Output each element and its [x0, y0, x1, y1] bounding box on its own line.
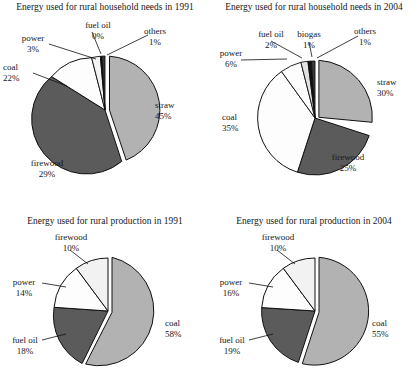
slice-label-firewood: firewood 10%	[247, 232, 309, 253]
chart-title: Energy used for rural production in 1991	[0, 216, 210, 226]
chart-household-1991: Energy used for rural household needs in…	[0, 0, 210, 195]
slice-label-fuel-oil: fuel oil 19%	[209, 335, 255, 356]
pie-slices	[262, 257, 369, 365]
slice-label-coal: coal 35%	[222, 112, 239, 133]
pie-chart-figure: Energy used for rural household needs in…	[0, 0, 419, 389]
pie-slices	[53, 257, 153, 365]
chart-title: Energy used for rural production in 2004	[209, 216, 419, 226]
slice-straw[interactable]	[319, 60, 372, 122]
slice-label-firewood: firewood 25%	[317, 152, 379, 173]
slice-label-others: others 1%	[134, 26, 176, 47]
slice-label-power: power 6%	[209, 48, 253, 69]
chart-title: Energy used for rural household needs in…	[209, 2, 419, 12]
slice-label-power: power 14%	[2, 277, 46, 298]
slice-straw[interactable]	[110, 56, 160, 160]
slice-label-fuel-oil: fuel oil 18%	[2, 335, 48, 356]
slice-label-straw: straw 30%	[377, 77, 397, 98]
chart-production-1991: Energy used for rural production in 1991…	[0, 194, 210, 389]
chart-household-2004: Energy used for rural household needs in…	[209, 0, 419, 195]
slice-label-firewood: firewood 29%	[16, 158, 78, 179]
chart-production-2004: Energy used for rural production in 2004…	[209, 194, 419, 389]
slice-label-others: others 1%	[344, 26, 386, 47]
slice-label-biogas: biogas 1%	[287, 29, 331, 50]
slice-label-power: power 16%	[209, 277, 253, 298]
slice-label-power: power 3%	[12, 33, 54, 54]
slice-label-straw: straw 45%	[155, 100, 175, 121]
slice-label-coal: coal 22%	[3, 62, 20, 83]
pie-slices	[32, 56, 160, 174]
chart-title: Energy used for rural household needs in…	[0, 2, 210, 12]
slice-label-coal: coal 55%	[372, 318, 389, 339]
leader-line-power	[49, 44, 96, 59]
slice-label-coal: coal 58%	[165, 318, 182, 339]
slice-label-firewood: firewood 10%	[40, 232, 102, 253]
slice-label-fuel-oil: fuel oil 0%	[74, 20, 122, 41]
